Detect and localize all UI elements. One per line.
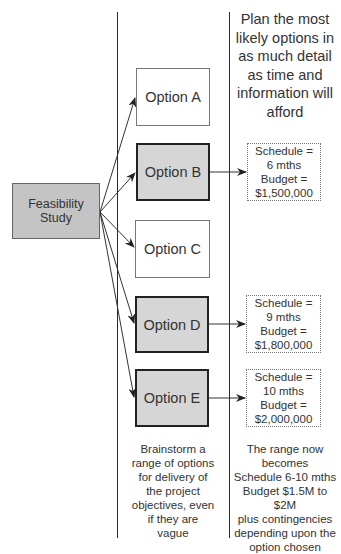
option-d-label: Option D <box>143 317 200 333</box>
caption-line: the project <box>119 484 227 498</box>
option-b-detail-box: Schedule = 6 mths Budget = $1,500,000 <box>247 143 321 201</box>
brainstorm-caption: Brainstorm a range of options for delive… <box>119 442 227 540</box>
caption-line: option chosen <box>231 540 339 554</box>
detail-line: Schedule = <box>255 370 313 384</box>
detail-line: Budget = <box>260 398 306 412</box>
option-e-box: Option E <box>135 369 209 427</box>
option-a-box: Option A <box>136 68 210 126</box>
heading-line: afford <box>232 103 338 122</box>
caption-line: for delivery of <box>119 470 227 484</box>
detail-line: 6 mths <box>267 158 302 172</box>
caption-line: objectives, even <box>119 498 227 512</box>
caption-line: becomes <box>231 456 339 470</box>
option-d-detail-box: Schedule = 9 mths Budget = $1,800,000 <box>246 295 321 353</box>
detail-line: 10 mths <box>263 384 304 398</box>
option-e-detail-box: Schedule = 10 mths Budget = $2,000,000 <box>246 369 321 427</box>
option-d-box: Option D <box>135 296 209 353</box>
caption-line: if they are <box>119 512 227 526</box>
detail-line: $1,500,000 <box>255 186 313 200</box>
arrow-to-option-e <box>100 212 134 397</box>
heading-line: as much detail <box>232 47 338 66</box>
feasibility-study-label: Feasibility Study <box>13 197 99 225</box>
option-a-label: Option A <box>145 89 201 105</box>
option-b-label: Option B <box>145 164 201 180</box>
detail-line: $2,000,000 <box>255 412 313 426</box>
caption-line: Brainstorm a <box>119 442 227 456</box>
heading-line: Plan the most <box>232 10 338 29</box>
heading-line: likely options in <box>232 29 338 48</box>
detail-line: 9 mths <box>266 310 301 324</box>
option-c-label: Option C <box>144 241 201 257</box>
feasibility-study-box: Feasibility Study <box>12 183 100 239</box>
planning-heading: Plan the most likely options in as much … <box>232 10 338 121</box>
caption-line: depending upon the <box>231 526 339 540</box>
caption-line: range of options <box>119 456 227 470</box>
detail-line: Schedule = <box>255 296 313 310</box>
caption-line: Schedule 6-10 mths <box>231 470 339 484</box>
detail-line: Budget = <box>261 172 307 186</box>
arrow-to-option-a <box>100 98 135 212</box>
detail-line: $1,800,000 <box>255 338 313 352</box>
caption-line: plus contingencies <box>231 512 339 526</box>
option-c-box: Option C <box>135 220 210 278</box>
detail-line: Schedule = <box>255 144 313 158</box>
heading-line: information will <box>232 84 338 103</box>
option-b-box: Option B <box>136 143 210 201</box>
arrow-to-option-b <box>100 173 135 212</box>
caption-line: The range now <box>231 442 339 456</box>
caption-line: vague <box>119 526 227 540</box>
heading-line: as time and <box>232 66 338 85</box>
option-e-label: Option E <box>144 390 200 406</box>
detail-line: Budget = <box>260 324 306 338</box>
range-caption: The range now becomes Schedule 6-10 mths… <box>231 442 339 554</box>
caption-line: Budget $1.5M to $2M <box>231 484 339 512</box>
